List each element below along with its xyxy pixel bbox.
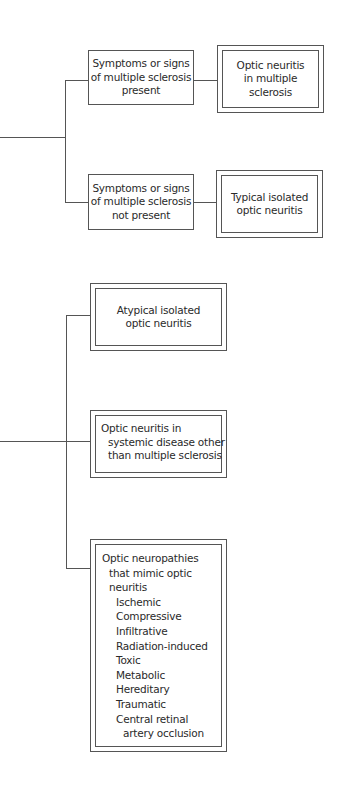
mimic-item: Compressive bbox=[102, 609, 221, 624]
mimics-box: Optic neuropathies that mimic optic neur… bbox=[90, 539, 227, 752]
label-line: Atypical isolated bbox=[117, 304, 200, 318]
title-line: neuritis bbox=[102, 580, 221, 595]
label-line: present bbox=[91, 84, 191, 98]
result-line: in multiple bbox=[237, 72, 305, 86]
branch-b-vertical-line bbox=[66, 315, 67, 569]
mimic-item-continuation: artery occlusion bbox=[102, 726, 221, 741]
mimic-item: Metabolic bbox=[102, 668, 221, 683]
mimic-item: Infiltrative bbox=[102, 624, 221, 639]
title-line: Optic neuropathies bbox=[102, 551, 221, 566]
branch-b-trunk-line bbox=[0, 441, 90, 442]
branch-a-lower-connector bbox=[65, 202, 88, 203]
label-line: of multiple sclerosis bbox=[91, 195, 191, 209]
label-line: systemic disease other bbox=[101, 436, 221, 450]
branch-b-mimics-connector bbox=[66, 568, 90, 569]
branch-a-upper-connector bbox=[65, 80, 88, 81]
mimic-item: Toxic bbox=[102, 653, 221, 668]
label-line: than multiple sclerosis bbox=[101, 449, 221, 463]
condition-ms-not-present-box: Symptoms or signs of multiple sclerosis … bbox=[88, 174, 194, 230]
result-1-connector bbox=[193, 80, 217, 81]
mimic-item: Traumatic bbox=[102, 697, 221, 712]
result-line: optic neuritis bbox=[231, 204, 308, 218]
condition-ms-present-box: Symptoms or signs of multiple sclerosis … bbox=[88, 50, 194, 105]
result-line: Typical isolated bbox=[231, 191, 308, 205]
mimic-item: Hereditary bbox=[102, 682, 221, 697]
label-line: Optic neuritis in bbox=[101, 422, 221, 436]
result-typical-isolated-box: Typical isolated optic neuritis bbox=[216, 170, 323, 238]
mimic-item: Central retinal bbox=[102, 712, 221, 727]
branch-b-atypical-connector bbox=[66, 315, 90, 316]
label-line: Symptoms or signs bbox=[91, 182, 191, 196]
label-line: of multiple sclerosis bbox=[91, 71, 191, 85]
branch-a-trunk-line bbox=[0, 137, 66, 138]
label-line: optic neuritis bbox=[117, 317, 200, 331]
label-line: not present bbox=[91, 209, 191, 223]
branch-a-vertical-line bbox=[65, 80, 66, 203]
mimic-item: Ischemic bbox=[102, 595, 221, 610]
title-line: that mimic optic bbox=[102, 566, 221, 581]
result-2-connector bbox=[193, 202, 216, 203]
result-line: sclerosis bbox=[237, 86, 305, 100]
result-line: Optic neuritis bbox=[237, 59, 305, 73]
systemic-disease-box: Optic neuritis in systemic disease other… bbox=[90, 410, 227, 478]
label-line: Symptoms or signs bbox=[91, 57, 191, 71]
result-optic-neuritis-ms-box: Optic neuritis in multiple sclerosis bbox=[217, 45, 324, 113]
atypical-isolated-box: Atypical isolated optic neuritis bbox=[90, 283, 227, 351]
mimic-item: Radiation-induced bbox=[102, 639, 221, 654]
